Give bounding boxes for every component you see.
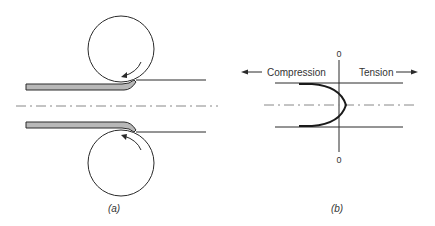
panel-b: 0 0 Compression Tension (b)	[241, 49, 418, 214]
caption-b: (b)	[331, 203, 343, 214]
top-roller-arrowhead-icon	[121, 72, 127, 78]
top-roller	[88, 16, 154, 82]
bottom-roller-arrow-icon	[124, 136, 141, 150]
bottom-roller-arrowhead-icon	[121, 134, 127, 140]
compression-label: Compression	[267, 67, 326, 78]
top-zero-label: 0	[336, 49, 341, 59]
compression-arrowhead-icon	[241, 70, 248, 75]
tension-label: Tension	[359, 67, 393, 78]
tension-arrowhead-icon	[411, 70, 418, 75]
figure-canvas: (a) 0 0 Compression Tension (b)	[0, 0, 435, 226]
bottom-roller	[88, 130, 154, 196]
panel-a: (a)	[16, 16, 218, 214]
bottom-zero-label: 0	[336, 155, 341, 165]
caption-a: (a)	[108, 203, 120, 214]
